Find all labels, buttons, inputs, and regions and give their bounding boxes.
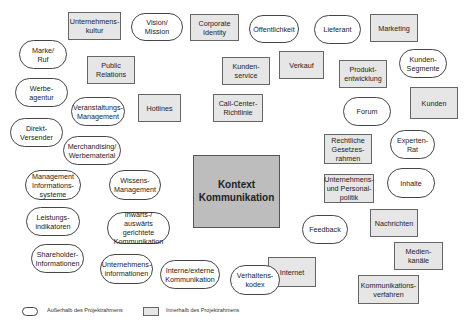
oval-inhalte: Inhalte [387,168,435,198]
oval-oeffentlichkeit: Öffentlichkeit [249,15,299,43]
box-hotlines: Hotlines [138,94,181,122]
center-node-kontext-kommunikation: Kontext Kommunikation [193,155,280,228]
legend-box-symbol [143,307,159,316]
oval-marke-ruf: Marke/ Ruf [19,40,67,69]
legend-outside-label: Außerhalb des Projektrahmens [47,307,123,313]
oval-management-informationssysteme: Management Informations- systeme [25,170,81,200]
oval-shareholder-informationen: Shareholder- Informationen [31,244,84,273]
oval-feedback: Feedback [302,215,348,244]
box-produktentwicklung: Produkt- entwicklung [339,60,387,88]
legend: Außerhalb des Projektrahmens Innerhalb d… [0,305,467,319]
oval-inwaerts-auswaerts-kommunikation: Inwärts-/ auswärts gerichtete Kommunikat… [107,212,170,244]
oval-forum: Forum [343,97,391,126]
box-kunden: Kunden [410,87,458,119]
oval-lieferant: Lieferant [314,15,361,44]
oval-veranstaltungsmanagement: Veranstaltungs- Management [71,97,125,126]
box-verkauf: Verkauf [279,51,324,79]
box-call-center-richtlinie: Call-Center- Richtlinie [213,94,263,122]
oval-kundensegmente: Kunden- Segmente [399,49,447,78]
box-corporate-identity: Corporate Identity [190,14,239,41]
box-unternehmenskultur: Unternehmens- kultur [68,12,121,40]
oval-leistungsindikatoren: Leistungs- indikatoren [26,207,80,236]
box-public-relations: Public Relations [87,56,135,84]
box-rechtliche-gesetzesrahmen: Rechtliche Gesetzes- rahmen [324,134,372,164]
box-kommunikationsverfahren: Kommunikations- verfahren [358,275,419,304]
oval-wissensmanagement: Wissens- Management [109,170,161,200]
box-marketing: Marketing [370,14,418,42]
oval-verhaltenskodex: Verhaltens- kodex [230,265,280,295]
box-nachrichten: Nachrichten [370,209,418,237]
oval-werbeagentur: Werbe- agentur [15,78,68,107]
oval-unternehmensinformationen: Unternehmens- informationen [100,254,153,284]
oval-interne-externe-kommunikation: Interne/externe Kommunikation [160,260,220,289]
box-unternehmens-und-personalpolitik: Unternehmens- und Personal- politik [324,174,374,203]
box-medienkanaele: Medien- kanäle [394,242,443,270]
oval-direktversender: Direkt- Versender [10,118,63,147]
oval-expertenrat: Experten- Rat [390,130,435,159]
oval-vision-mission: Vision/ Mission [131,13,183,41]
legend-inside-label: Innerhalb des Projektrahmens [166,307,239,313]
legend-oval-symbol [22,307,38,316]
box-kundenservice: Kunden- service [222,57,270,85]
oval-merchandising-werbematerial: Merchandising/ Werbematerial [63,136,121,165]
